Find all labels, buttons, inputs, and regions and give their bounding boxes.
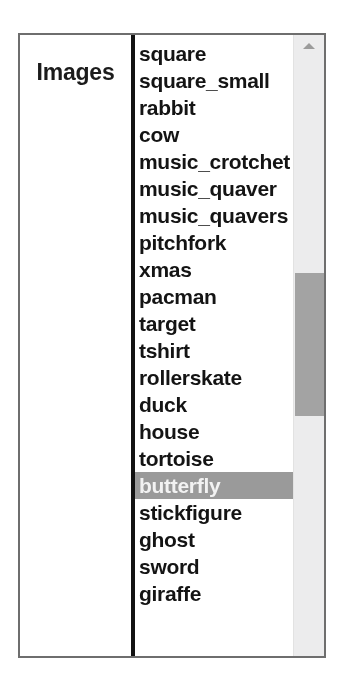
images-option-list[interactable]: squaresquare_smallrabbitcowmusic_crotche… [135,40,293,656]
list-scrollbar[interactable] [293,35,324,656]
scroll-up-button[interactable] [294,35,324,57]
list-option[interactable]: rabbit [135,94,293,121]
list-option[interactable]: music_quaver [135,175,293,202]
list-option[interactable]: house [135,418,293,445]
list-option[interactable]: giraffe [135,580,293,607]
list-option[interactable]: xmas [135,256,293,283]
list-option[interactable]: sword [135,553,293,580]
list-option-selected[interactable]: butterfly [135,472,293,499]
list-option[interactable]: rollerskate [135,364,293,391]
scroll-thumb[interactable] [295,273,324,416]
list-option[interactable]: cow [135,121,293,148]
images-row-label: Images [20,61,131,84]
list-option[interactable]: music_crotchet [135,148,293,175]
list-option[interactable]: stickfigure [135,499,293,526]
list-option[interactable]: pacman [135,283,293,310]
list-option[interactable]: target [135,310,293,337]
list-option[interactable]: ghost [135,526,293,553]
caret-up-icon [303,43,315,49]
images-row-label-cell: Images [20,35,131,656]
images-listbox[interactable]: squaresquare_smallrabbitcowmusic_crotche… [135,35,324,656]
list-option[interactable]: tshirt [135,337,293,364]
list-option[interactable]: duck [135,391,293,418]
list-option[interactable]: pitchfork [135,229,293,256]
list-option[interactable]: music_quavers [135,202,293,229]
list-option[interactable]: tortoise [135,445,293,472]
images-table: Images squaresquare_smallrabbitcowmusic_… [18,33,326,658]
list-option[interactable]: square [135,40,293,67]
list-option[interactable]: square_small [135,67,293,94]
